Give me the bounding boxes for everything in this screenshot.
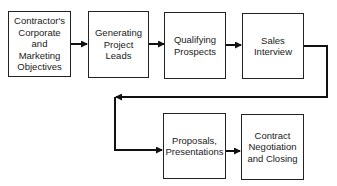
node-leads: Generating Project Leads: [88, 11, 149, 78]
node-qualifying-label: Qualifying Prospects: [174, 34, 216, 57]
node-interview: Sales Interview: [242, 13, 304, 79]
node-contract: Contract Negotiation and Closing: [241, 114, 304, 180]
node-contract-label: Contract Negotiation and Closing: [247, 130, 297, 165]
node-proposals-label: Proposals, Presentations: [165, 135, 223, 158]
node-proposals: Proposals, Presentations: [163, 113, 226, 179]
node-leads-label: Generating Project Leads: [95, 27, 142, 62]
node-qualifying: Qualifying Prospects: [164, 12, 226, 79]
node-objectives-label: Contractor's Corporate and Marketing Obj…: [14, 15, 65, 73]
arrow-to-proposals: [115, 97, 162, 150]
node-interview-label: Sales Interview: [254, 35, 292, 58]
node-objectives: Contractor's Corporate and Marketing Obj…: [8, 11, 71, 77]
